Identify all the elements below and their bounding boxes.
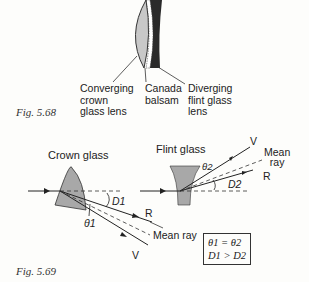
label-line: Converging [80, 83, 134, 95]
flint-mean-ray-label: Mean ray [264, 147, 290, 167]
deviation-d2-label: D2 [228, 179, 241, 191]
label-line: lens [188, 106, 232, 118]
crown-mean-ray-label: Mean ray [153, 230, 197, 242]
crown-glass-title: Crown glass [48, 150, 109, 162]
balsam-label: Canada balsam [145, 83, 182, 106]
flint-r-label: R [263, 171, 271, 183]
deviation-d1-label: D1 [112, 196, 125, 208]
label-line: Diverging [188, 83, 232, 95]
flint-glass-title: Flint glass [156, 144, 206, 156]
figure-caption: Fig. 5.69 [16, 265, 56, 277]
figure-caption: Fig. 5.68 [16, 106, 56, 118]
label-line: Canada [145, 83, 182, 95]
label-line: balsam [145, 95, 182, 107]
theta1-label: θ1 [84, 218, 96, 230]
theta2-label: θ2 [202, 161, 212, 173]
equation-box: θ1 = θ2 D1 > D2 [203, 233, 251, 265]
crown-r-label: R [145, 208, 153, 220]
label-line: ray [264, 157, 290, 167]
equation-line: D1 > D2 [208, 249, 246, 262]
crown-lens [135, 0, 148, 68]
crown-v-label: V [132, 250, 139, 262]
flint-lens-label: Diverging flint glass lens [188, 83, 232, 118]
flint-v-label: V [250, 136, 257, 148]
crown-lens-label: Converging crown glass lens [80, 83, 134, 118]
label-line: glass lens [80, 106, 134, 118]
equation-line: θ1 = θ2 [208, 236, 246, 249]
